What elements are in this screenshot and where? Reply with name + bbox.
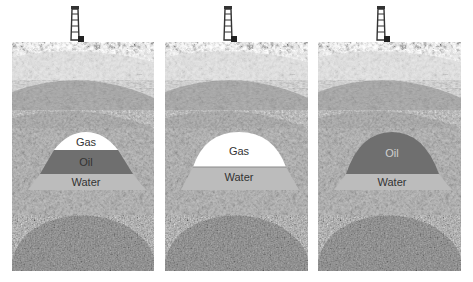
water-label: Water: [225, 171, 254, 183]
oil-label: Oil: [79, 156, 92, 168]
panel-gas-water: Gas Water: [153, 0, 313, 282]
oil-derrick-icon: [377, 6, 390, 42]
water-label: Water: [72, 176, 101, 188]
gas-label: Gas: [76, 136, 97, 148]
oil-derrick-icon: [71, 6, 84, 42]
oil-label: Oil: [385, 147, 398, 159]
panel-oil-water: Oil Water: [306, 0, 473, 282]
oil-derrick-icon: [224, 6, 237, 42]
water-label: Water: [378, 176, 407, 188]
gas-label: Gas: [229, 145, 250, 157]
panel-gas-oil-water: Gas Oil Water: [0, 0, 160, 282]
